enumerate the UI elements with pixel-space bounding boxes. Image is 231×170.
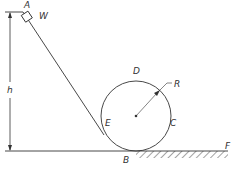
radius-line (136, 93, 157, 116)
label-a: A (23, 0, 30, 10)
label-c: C (170, 118, 177, 128)
arrow-up-icon (8, 12, 12, 18)
label-b: B (123, 155, 129, 165)
height-dimension: h (5, 12, 23, 151)
loop-the-loop-diagram: h A W R D E C B F (0, 0, 231, 170)
incline (23, 12, 104, 135)
arrow-down-icon (8, 145, 12, 151)
label-r: R (174, 79, 180, 89)
label-h: h (7, 85, 13, 95)
label-w: W (39, 11, 49, 21)
ground-hatching (136, 151, 228, 158)
label-f: F (225, 141, 231, 151)
block-w (21, 11, 32, 22)
label-e: E (105, 118, 111, 128)
label-d: D (133, 66, 140, 76)
radius-leader (159, 83, 172, 91)
